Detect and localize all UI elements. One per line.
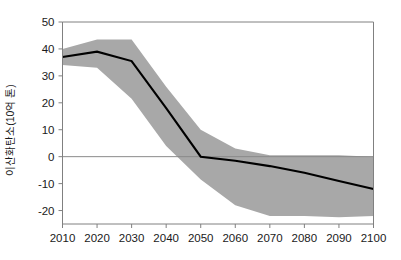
y-axis-title: 이산화탄소(10억 톤) xyxy=(4,84,16,176)
y-tick-label: 20 xyxy=(42,97,55,109)
y-tick-label: 30 xyxy=(42,70,55,82)
chart-container: -20-1001020304050 2010202020302040205020… xyxy=(0,0,401,260)
x-tick-label: 2080 xyxy=(292,232,318,244)
x-tick-label: 2070 xyxy=(257,232,283,244)
x-tick-label: 2010 xyxy=(50,232,76,244)
y-axis-title-text: 이산화탄소(10억 톤) xyxy=(4,84,16,176)
x-tick-label: 2040 xyxy=(153,232,179,244)
y-tick-label: 50 xyxy=(42,16,55,28)
y-tick-label: 0 xyxy=(48,151,54,163)
x-tick-label: 2090 xyxy=(326,232,352,244)
x-tick-label: 2100 xyxy=(361,232,387,244)
y-tick-label: 40 xyxy=(42,43,55,55)
x-tick-label: 2020 xyxy=(84,232,110,244)
y-tick-label: -10 xyxy=(38,178,55,190)
x-tick-label: 2060 xyxy=(222,232,248,244)
y-tick-label: -20 xyxy=(38,205,55,217)
x-tick-label: 2030 xyxy=(119,232,145,244)
y-tick-label: 10 xyxy=(42,124,55,136)
x-tick-label: 2050 xyxy=(188,232,214,244)
co2-projection-chart: -20-1001020304050 2010202020302040205020… xyxy=(0,0,401,260)
